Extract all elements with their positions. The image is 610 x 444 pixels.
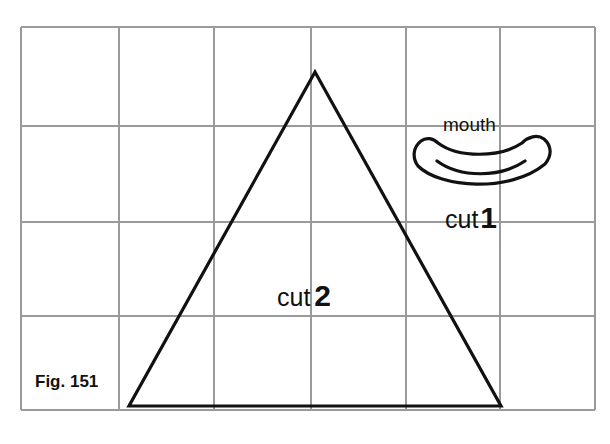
cut-1-label: cut1 — [445, 201, 497, 234]
cut-2-label: cut2 — [277, 279, 331, 312]
cut-2-word: cut — [277, 283, 310, 311]
pattern-diagram: mouth cut1 cut2 Fig. 151 — [0, 0, 610, 444]
cut-1-word: cut — [445, 205, 478, 233]
cut-1-count: 1 — [480, 201, 497, 234]
mouth-inner-line — [437, 161, 525, 174]
mouth-label: mouth — [443, 114, 496, 135]
figure-caption: Fig. 151 — [35, 372, 98, 391]
mouth-piece — [414, 136, 550, 184]
mouth-outline — [414, 136, 550, 184]
cut-2-count: 2 — [314, 279, 331, 312]
